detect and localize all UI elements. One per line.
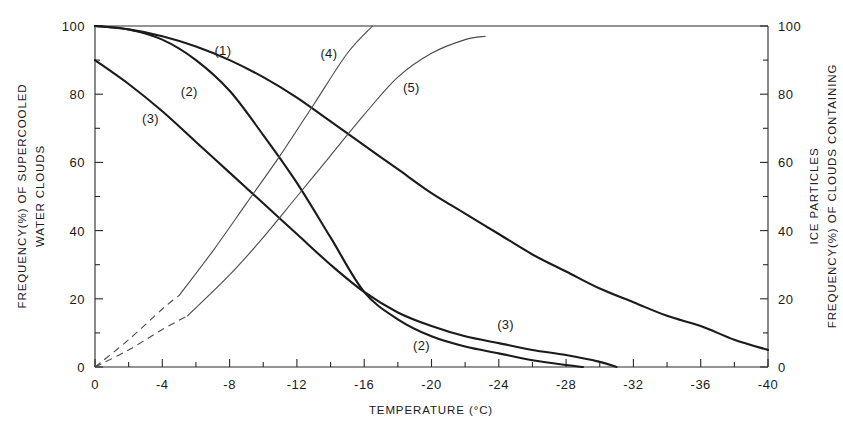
curve-(1) <box>95 26 768 350</box>
y-left-tick-label: 40 <box>70 224 85 239</box>
x-tick-label: -28 <box>556 377 576 392</box>
y-axis-right-ticks <box>760 26 768 367</box>
curve-(4)-dashed-extrapolation <box>95 295 179 367</box>
y-right-tick-label: 0 <box>778 360 786 375</box>
y-right-tick-label: 100 <box>778 19 801 34</box>
x-tick-label: -4 <box>156 377 169 392</box>
y-left-tick-label: 20 <box>70 292 85 307</box>
y-right-tick-label: 80 <box>778 87 793 102</box>
y-left-tick-label: 60 <box>70 155 85 170</box>
y-axis-left-title: FREQUENCY(%) OF SUPERCOOLED WATER CLOUDS <box>16 84 46 309</box>
x-tick-label: -36 <box>691 377 711 392</box>
y-left-tick-label: 80 <box>70 87 85 102</box>
curve-label-(4): (4) <box>320 46 337 61</box>
curve-(3)-upper <box>95 60 617 367</box>
y-left-tick-label: 100 <box>62 19 85 34</box>
x-tick-label: -12 <box>287 377 307 392</box>
y-axis-left-title-line1: FREQUENCY(%) OF SUPERCOOLED <box>16 84 28 309</box>
data-curves <box>95 26 768 367</box>
y-left-tick-label-group: 020406080100 <box>62 19 85 375</box>
figure-container: (1)(2)(3)(2)(3)(4)(5) 0-4-8-12-16-20-24-… <box>0 0 843 428</box>
y-right-tick-label: 60 <box>778 155 793 170</box>
x-tick-label: -8 <box>223 377 236 392</box>
y-left-tick-label: 0 <box>77 360 85 375</box>
curve-label-(2)-label-lower: (2) <box>413 338 430 353</box>
chart-svg: (1)(2)(3)(2)(3)(4)(5) 0-4-8-12-16-20-24-… <box>0 0 843 428</box>
x-tick-label: -20 <box>421 377 441 392</box>
x-axis-ticks <box>95 359 768 367</box>
y-axis-right-title: FREQUENCY(%) OF CLOUDS CONTAINING ICE PA… <box>808 64 838 329</box>
x-axis-title: TEMPERATURE (°C) <box>369 404 493 416</box>
x-tick-label: -32 <box>623 377 643 392</box>
curve-label-(3)-label-lower: (3) <box>497 317 514 332</box>
x-tick-label: -40 <box>758 377 778 392</box>
x-tick-label: -16 <box>354 377 374 392</box>
y-right-tick-label-group: 020406080100 <box>778 19 801 375</box>
curve-(5)-dashed-extrapolation <box>95 316 188 367</box>
curve-label-(1): (1) <box>214 43 231 58</box>
curve-label-(5): (5) <box>403 80 420 95</box>
curve-(2)-upper <box>95 26 583 367</box>
curve-label-(2)-upper: (2) <box>181 84 198 99</box>
y-right-tick-label: 40 <box>778 224 793 239</box>
x-tick-label: -24 <box>489 377 509 392</box>
curve-(4) <box>179 26 372 295</box>
x-tick-label-group: 0-4-8-12-16-20-24-28-32-36-40 <box>91 377 778 392</box>
y-axis-left-ticks <box>95 26 103 367</box>
y-axis-right-title-line1: FREQUENCY(%) OF CLOUDS CONTAINING <box>826 64 838 329</box>
y-axis-right-title-line2: ICE PARTICLES <box>808 148 820 245</box>
x-tick-label: 0 <box>91 377 99 392</box>
y-right-tick-label: 20 <box>778 292 793 307</box>
curve-label-(3)-upper: (3) <box>142 111 159 126</box>
y-axis-left-title-line2: WATER CLOUDS <box>34 145 46 247</box>
